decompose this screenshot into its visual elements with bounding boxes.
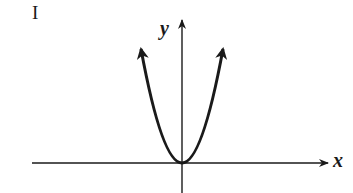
parabola-graph: I y x: [0, 0, 353, 193]
panel-label: I: [32, 3, 38, 22]
y-axis-label: y: [160, 18, 169, 38]
parabola-left-branch: [141, 49, 182, 163]
parabola-right-branch: [182, 49, 223, 163]
graph-canvas: [0, 0, 353, 193]
x-axis-label: x: [333, 150, 343, 170]
